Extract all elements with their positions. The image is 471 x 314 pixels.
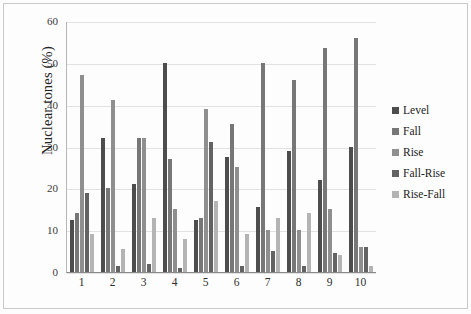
legend-item: Rise-Fall (392, 184, 468, 205)
bar (354, 38, 358, 272)
y-tick-label: 40 (36, 100, 58, 111)
bar (302, 266, 306, 272)
y-tick-label: 10 (36, 225, 58, 236)
chart-legend: LevelFallRiseFall-RiseRise-Fall (392, 100, 468, 205)
bar (75, 213, 79, 272)
bar (261, 63, 265, 272)
bar-group (129, 22, 160, 272)
bar (163, 63, 167, 272)
bar (369, 266, 373, 272)
x-tick-label: 2 (97, 277, 128, 297)
bar (80, 75, 84, 272)
bar (199, 218, 203, 272)
bar (147, 264, 151, 272)
legend-label: Fall-Rise (403, 168, 445, 180)
bar (204, 109, 208, 272)
bar (292, 80, 296, 272)
legend-swatch-icon (392, 107, 399, 114)
bar (256, 207, 260, 272)
legend-label: Level (403, 105, 429, 117)
bar-group (191, 22, 222, 272)
bar (106, 188, 110, 272)
x-tick-label: 4 (159, 277, 190, 297)
legend-item: Level (392, 100, 468, 121)
bar (111, 100, 115, 272)
x-tick-label: 10 (345, 277, 376, 297)
y-axis-tick-labels: 6050403020100 (36, 0, 60, 314)
bar (328, 209, 332, 272)
bar-group (252, 22, 283, 272)
bar (121, 249, 125, 272)
legend-item: Rise (392, 142, 468, 163)
bar (323, 48, 327, 272)
chart-figure: Nuclear tones (%) 6050403020100 12345678… (0, 0, 471, 314)
bar-group (67, 22, 98, 272)
x-axis-tick-labels: 12345678910 (66, 277, 376, 297)
x-tick-label: 5 (190, 277, 221, 297)
bar (178, 268, 182, 272)
y-tick-label: 30 (36, 142, 58, 153)
bar (142, 138, 146, 272)
bar-group (222, 22, 253, 272)
bar-group (314, 22, 345, 272)
bar (240, 266, 244, 272)
bar (287, 151, 291, 272)
bar (209, 142, 213, 272)
x-tick-label: 7 (252, 277, 283, 297)
bar (276, 218, 280, 272)
legend-label: Rise-Fall (403, 189, 445, 201)
bar (101, 138, 105, 272)
bar (338, 255, 342, 272)
bar (132, 184, 136, 272)
y-tick-label: 20 (36, 183, 58, 194)
bar (194, 220, 198, 272)
bar (333, 253, 337, 272)
bar (359, 247, 363, 272)
bar (90, 234, 94, 272)
y-tick-label: 60 (36, 16, 58, 27)
bar (230, 124, 234, 273)
bar (225, 157, 229, 272)
legend-swatch-icon (392, 149, 399, 156)
bar (271, 251, 275, 272)
legend-item: Fall-Rise (392, 163, 468, 184)
bar-group (345, 22, 376, 272)
bar (214, 201, 218, 272)
bar (168, 159, 172, 272)
bar (266, 230, 270, 272)
legend-swatch-icon (392, 128, 399, 135)
bar (307, 213, 311, 272)
legend-swatch-icon (392, 170, 399, 177)
bar (183, 239, 187, 272)
plot-area (66, 22, 376, 273)
legend-item: Fall (392, 121, 468, 142)
y-tick-label: 50 (36, 58, 58, 69)
bar (173, 209, 177, 272)
bar (85, 193, 89, 272)
bar (152, 218, 156, 272)
x-tick-label: 8 (283, 277, 314, 297)
bar (116, 266, 120, 272)
bar-series-container (67, 22, 376, 272)
legend-label: Rise (403, 147, 423, 159)
bar (70, 220, 74, 272)
bar-group (98, 22, 129, 272)
x-tick-label: 1 (66, 277, 97, 297)
bar-group (283, 22, 314, 272)
gridline (67, 273, 376, 274)
legend-swatch-icon (392, 191, 399, 198)
bar (137, 138, 141, 272)
bar (318, 180, 322, 272)
x-tick-label: 3 (128, 277, 159, 297)
bar-group (160, 22, 191, 272)
x-tick-label: 9 (314, 277, 345, 297)
y-tick-label: 0 (36, 267, 58, 278)
bar (245, 234, 249, 272)
x-tick-label: 6 (221, 277, 252, 297)
bar (297, 230, 301, 272)
legend-label: Fall (403, 126, 421, 138)
bar (349, 147, 353, 273)
bar (235, 167, 239, 272)
bar (364, 247, 368, 272)
